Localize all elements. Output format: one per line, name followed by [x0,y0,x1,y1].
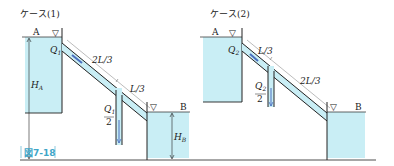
tank-a-label: A [32,27,40,37]
tank-a-label: A [211,27,219,37]
segment-lower-label: 2L/3 [299,76,321,86]
tank-b-label: B [355,102,362,112]
water-surface-b-icon: ▽ [330,102,337,112]
branch-flow-denominator: 2 [106,117,112,127]
branch-flow-denominator: 2 [257,94,263,104]
branch-flow-numerator: Q1 [104,104,115,115]
tank-b-water [327,112,365,158]
case-1-diagram: ケース(1) A ▽ HA Q1 Q1 2 2L/3 L/3 [20,9,200,160]
case-1-title: ケース(1) [20,9,60,19]
figure-caption: 図7-18 [24,148,56,158]
tank-a-water [203,37,242,102]
segment-lower-label: L/3 [129,84,145,94]
pipe-flow-diagram: ケース(1) A ▽ HA Q1 Q1 2 2L/3 L/3 [0,0,394,166]
branch-flow-numerator: Q2 [255,81,266,92]
tank-b-label: B [180,102,187,112]
tank-b-water [147,112,189,158]
case-2-diagram: ケース(2) A ▽ Q2 Q2 2 L/3 2L/3 ▽ B [200,9,376,160]
pipe-upper-wall [62,43,147,113]
water-surface-icon: ▽ [52,28,59,38]
case-2-title: ケース(2) [210,9,250,19]
segment-upper-label: L/3 [257,46,273,56]
length-dimension-line [67,40,150,108]
segment-upper-label: 2L/3 [91,55,113,65]
water-surface-icon: ▽ [229,28,236,38]
water-surface-b-icon: ▽ [150,102,157,112]
